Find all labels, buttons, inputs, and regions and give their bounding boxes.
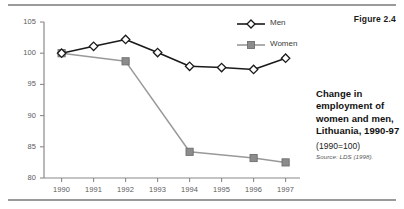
y-tick-label: 95 (12, 79, 36, 88)
x-tick-label: 1997 (269, 185, 303, 194)
x-tick-label: 1992 (109, 185, 143, 194)
caption-title: Change in employment of women and men, L… (316, 88, 402, 138)
series-men-line (57, 35, 289, 73)
y-tick-label: 100 (12, 48, 36, 57)
y-tick-label: 85 (12, 142, 36, 151)
x-tick-label: 1990 (45, 185, 79, 194)
y-tick-label: 90 (12, 111, 36, 120)
x-tick-label: 1993 (141, 185, 175, 194)
y-tick-label: 105 (12, 17, 36, 26)
bottom-rule (8, 199, 396, 201)
caption-block: Change in employment of women and men, L… (316, 88, 402, 160)
chart-svg (0, 12, 310, 192)
x-axis-ticks (62, 178, 286, 182)
caption-source: Source: LDS (1998). (316, 153, 402, 160)
y-tick-label: 80 (12, 173, 36, 182)
figure-container: Figure 2.4 Men Women (0, 0, 404, 209)
x-tick-label: 1991 (77, 185, 111, 194)
axes (44, 22, 300, 178)
x-tick-label: 1995 (205, 185, 239, 194)
caption-basis: (1990=100) (316, 141, 402, 151)
x-tick-label: 1996 (237, 185, 271, 194)
x-tick-label: 1994 (173, 185, 207, 194)
plot-area: 80859095100105 1990199119921993199419951… (0, 12, 310, 192)
top-rule (8, 4, 396, 6)
figure-number: Figure 2.4 (354, 14, 396, 24)
